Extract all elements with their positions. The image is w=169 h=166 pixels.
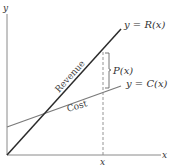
profit-bracket: [105, 53, 111, 88]
x-axis-label: x: [162, 150, 167, 160]
cost-equation-label: y = C(x): [125, 78, 168, 89]
cost-line-label: Cost: [66, 98, 89, 114]
x-tick-label: x: [100, 157, 105, 166]
revenue-cost-diagram: y x x P(x) y = R(x) y = C(x) Revenue Cos…: [0, 0, 169, 166]
revenue-equation-label: y = R(x): [123, 19, 165, 30]
revenue-line-label: Revenue: [53, 58, 87, 94]
y-axis-label: y: [2, 3, 9, 13]
profit-label: P(x): [112, 65, 133, 76]
